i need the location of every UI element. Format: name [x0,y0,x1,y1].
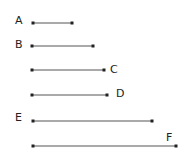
end-endpoint-icon [175,145,178,148]
end-endpoint-icon [92,45,95,48]
segment-label: F [166,131,172,144]
segment-f: F [32,131,178,148]
segment-diagram: ABCDEF [0,0,184,159]
segment-c: C [31,63,119,76]
end-endpoint-icon [103,69,106,72]
start-endpoint-icon [32,22,35,25]
segment-label: B [15,38,23,51]
segment-label: A [15,14,23,27]
start-endpoint-icon [32,145,35,148]
segment-d: D [31,87,125,100]
end-endpoint-icon [71,22,74,25]
segment-label: C [110,63,118,76]
start-endpoint-icon [31,94,34,97]
segment-b: B [15,38,95,51]
segment-label: D [116,87,124,100]
segment-a: A [15,14,74,27]
end-endpoint-icon [106,94,109,97]
start-endpoint-icon [31,69,34,72]
start-endpoint-icon [31,45,34,48]
end-endpoint-icon [151,120,154,123]
start-endpoint-icon [32,120,35,123]
segment-label: E [15,111,22,124]
segment-e: E [15,111,154,124]
